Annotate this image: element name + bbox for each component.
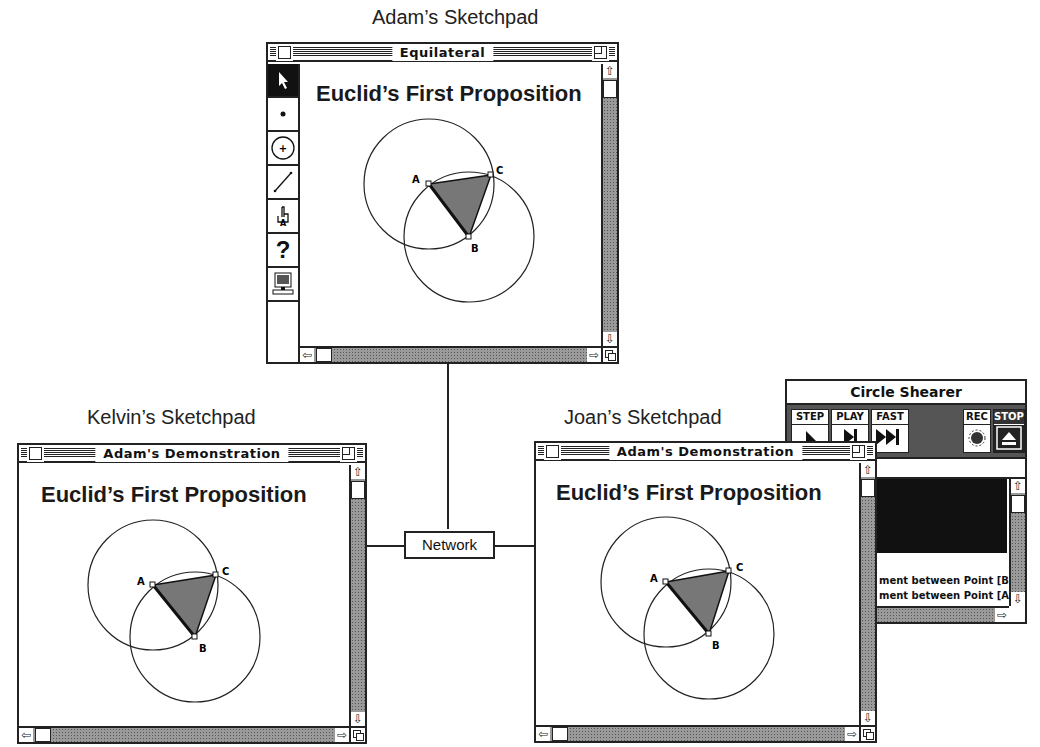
zoom-box-icon[interactable] bbox=[852, 445, 865, 458]
computer-icon bbox=[272, 271, 294, 297]
script-tool[interactable] bbox=[268, 268, 298, 302]
kelvin-vscroll-thumb[interactable] bbox=[351, 481, 365, 499]
joan-construction-canvas[interactable]: A B C bbox=[582, 505, 862, 725]
svg-text:A: A bbox=[650, 573, 658, 584]
label-c: C bbox=[496, 165, 503, 176]
point-a-icon bbox=[426, 181, 431, 186]
joan-hscroll-thumb[interactable] bbox=[552, 727, 568, 741]
joan-vertical-scrollbar[interactable]: ⇧ ⇩ bbox=[859, 463, 875, 725]
caption-adam: Adam’s Sketchpad bbox=[372, 6, 538, 29]
joan-titlebar[interactable]: Adam's Demonstration bbox=[536, 443, 875, 461]
kelvin-window-title: Adam's Demonstration bbox=[95, 445, 288, 462]
kelvin-vertical-scrollbar[interactable]: ⇧ ⇩ bbox=[349, 465, 365, 726]
scroll-left-icon[interactable]: ⇦ bbox=[300, 348, 314, 362]
kelvin-hscroll-thumb[interactable] bbox=[35, 728, 51, 742]
fast-forward-icon bbox=[872, 425, 908, 453]
point-b-icon bbox=[466, 234, 471, 239]
network-node: Network bbox=[404, 531, 495, 559]
eject-icon bbox=[994, 425, 1024, 453]
adam-sketchpad-window[interactable]: Equilateral + A ? Euclid’s First Proposi… bbox=[266, 42, 619, 364]
record-icon bbox=[964, 425, 990, 453]
scroll-up-icon[interactable]: ⇧ bbox=[1011, 479, 1025, 493]
compass-tool[interactable]: + bbox=[268, 132, 298, 166]
rec-button[interactable]: REC bbox=[963, 409, 991, 453]
adam-titlebar[interactable]: Equilateral bbox=[268, 44, 617, 62]
joan-doc-title: Euclid’s First Proposition bbox=[556, 480, 822, 506]
adam-window-title: Equilateral bbox=[392, 44, 493, 61]
scroll-right-icon[interactable]: ⇨ bbox=[845, 727, 859, 741]
text-hand-tool[interactable]: A bbox=[268, 200, 298, 234]
arrow-pointer-icon bbox=[275, 70, 291, 90]
kelvin-horizontal-scrollbar[interactable]: ⇦ ⇨ bbox=[19, 726, 349, 742]
scroll-up-icon[interactable]: ⇧ bbox=[861, 463, 875, 477]
kelvin-titlebar[interactable]: Adam's Demonstration bbox=[19, 445, 365, 463]
script-vertical-scrollbar[interactable]: ⇧ ⇩ bbox=[1009, 479, 1025, 606]
label-b: B bbox=[471, 243, 479, 254]
joan-horizontal-scrollbar[interactable]: ⇦ ⇨ bbox=[536, 725, 859, 741]
stop-label: STOP bbox=[994, 410, 1024, 425]
script-log-line-2: ment between Point [A bbox=[879, 590, 1009, 601]
scroll-down-icon[interactable]: ⇩ bbox=[861, 711, 875, 725]
scroll-left-icon[interactable]: ⇦ bbox=[19, 728, 33, 742]
zoom-box-icon[interactable] bbox=[594, 46, 607, 59]
hand-label-icon: A bbox=[272, 204, 294, 228]
zoom-box-icon[interactable] bbox=[342, 447, 355, 460]
network-label: Network bbox=[422, 536, 477, 553]
kelvin-doc-title: Euclid’s First Proposition bbox=[41, 482, 307, 508]
joan-sketchpad-window[interactable]: Adam's Demonstration Euclid’s First Prop… bbox=[534, 441, 877, 743]
close-box-icon[interactable] bbox=[29, 447, 42, 460]
adam-toolbox: + A ? bbox=[268, 64, 300, 362]
network-line-kelvin bbox=[365, 545, 405, 547]
svg-text:+: + bbox=[279, 143, 287, 154]
adam-horizontal-scrollbar[interactable]: ⇦ ⇨ bbox=[300, 346, 601, 362]
label-a: A bbox=[412, 174, 420, 185]
rec-label: REC bbox=[964, 410, 990, 425]
script-vscroll-thumb[interactable] bbox=[1011, 495, 1025, 513]
scroll-down-icon[interactable]: ⇩ bbox=[603, 332, 617, 346]
grow-box-icon[interactable] bbox=[601, 346, 617, 362]
adam-construction-canvas[interactable]: A B C bbox=[301, 112, 601, 342]
scroll-right-icon[interactable]: ⇨ bbox=[587, 348, 601, 362]
scroll-up-icon[interactable]: ⇧ bbox=[603, 64, 617, 78]
stop-button[interactable]: STOP bbox=[993, 409, 1025, 453]
grow-box-icon[interactable] bbox=[349, 726, 365, 742]
close-box-icon[interactable] bbox=[546, 445, 559, 458]
close-box-icon[interactable] bbox=[278, 46, 291, 59]
kelvin-construction-canvas[interactable]: A B C bbox=[59, 507, 339, 727]
scroll-down-icon[interactable]: ⇩ bbox=[1011, 592, 1025, 606]
arrow-select-tool[interactable] bbox=[268, 64, 298, 98]
grow-box-icon[interactable] bbox=[859, 725, 875, 741]
adam-hscroll-thumb[interactable] bbox=[316, 348, 332, 362]
kelvin-sketchpad-window[interactable]: Adam's Demonstration Euclid’s First Prop… bbox=[17, 443, 367, 744]
adam-doc-title: Euclid’s First Proposition bbox=[316, 81, 582, 107]
scroll-up-icon[interactable]: ⇧ bbox=[351, 465, 365, 479]
svg-text:B: B bbox=[712, 640, 720, 651]
help-tool[interactable]: ? bbox=[268, 234, 298, 268]
triangle-abc bbox=[429, 175, 491, 237]
adam-vscroll-thumb[interactable] bbox=[603, 80, 617, 98]
straightedge-tool[interactable] bbox=[268, 166, 298, 200]
line-segment-icon bbox=[270, 169, 296, 195]
question-mark-icon: ? bbox=[276, 236, 291, 264]
scroll-right-icon[interactable]: ⇨ bbox=[995, 608, 1009, 622]
network-line-adam bbox=[447, 363, 449, 529]
svg-text:C: C bbox=[736, 562, 743, 573]
joan-window-title: Adam's Demonstration bbox=[609, 443, 802, 460]
scroll-down-icon[interactable]: ⇩ bbox=[351, 712, 365, 726]
scroll-left-icon[interactable]: ⇦ bbox=[536, 727, 550, 741]
circle-icon: + bbox=[270, 135, 296, 161]
svg-text:A: A bbox=[280, 219, 287, 228]
point-tool[interactable] bbox=[268, 98, 298, 132]
play-label: PLAY bbox=[832, 410, 868, 425]
caption-joan: Joan’s Sketchpad bbox=[564, 406, 722, 429]
svg-text:B: B bbox=[199, 643, 207, 654]
joan-vscroll-thumb[interactable] bbox=[861, 479, 875, 497]
fast-label: FAST bbox=[872, 410, 908, 425]
caption-kelvin: Kelvin’s Sketchpad bbox=[87, 406, 256, 429]
script-title: Circle Shearer bbox=[787, 381, 1025, 405]
svg-text:C: C bbox=[222, 566, 229, 577]
scroll-right-icon[interactable]: ⇨ bbox=[335, 728, 349, 742]
svg-text:A: A bbox=[137, 576, 145, 587]
point-c-icon bbox=[488, 172, 493, 177]
adam-vertical-scrollbar[interactable]: ⇧ ⇩ bbox=[601, 64, 617, 346]
